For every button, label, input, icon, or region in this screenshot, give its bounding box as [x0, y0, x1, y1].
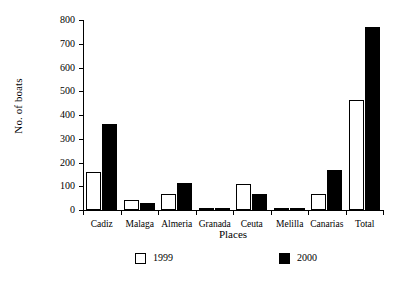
x-axis-tick — [308, 211, 309, 215]
bar-1999-almeria — [161, 194, 176, 210]
y-axis-tick: 700 — [79, 44, 84, 45]
legend-entry-1999: 1999 — [135, 252, 173, 264]
bar-group — [161, 20, 192, 210]
legend-label-2000: 2000 — [297, 252, 317, 264]
y-axis-tick: 400 — [79, 115, 84, 116]
y-axis-tick: 600 — [79, 68, 84, 69]
bar-group — [274, 20, 305, 210]
legend-swatch-1999 — [135, 253, 146, 264]
bar-2000-almeria — [177, 183, 192, 210]
bar-2000-melilla — [290, 208, 305, 210]
bar-1999-ceuta — [236, 184, 251, 210]
y-axis-title: No. of boats — [12, 61, 24, 151]
bar-group — [124, 20, 155, 210]
y-axis-tick-label: 700 — [60, 37, 75, 50]
y-axis-tick-label: 500 — [60, 84, 75, 97]
bar-1999-canarias — [311, 194, 326, 210]
y-axis-tick: 500 — [79, 91, 84, 92]
x-axis-tick — [346, 211, 347, 215]
y-axis-tick: 300 — [79, 139, 84, 140]
bar-chart-figure: No. of boats 0100200300400500600700800 C… — [0, 0, 407, 283]
bar-1999-granada — [199, 208, 214, 210]
x-axis-tick — [233, 211, 234, 215]
legend-label-1999: 1999 — [153, 252, 173, 264]
x-axis-tick — [271, 211, 272, 215]
bar-2000-total — [365, 27, 380, 210]
bar-group — [349, 20, 380, 210]
y-axis-tick-label: 400 — [60, 108, 75, 121]
bar-1999-cadiz — [86, 172, 101, 210]
y-axis-tick: 100 — [79, 186, 84, 187]
x-axis-tick — [383, 211, 384, 215]
x-axis-tick — [196, 211, 197, 215]
bar-2000-cadiz — [102, 124, 117, 210]
legend-swatch-2000 — [279, 253, 290, 264]
bar-1999-melilla — [274, 208, 289, 210]
bar-2000-malaga — [140, 203, 155, 210]
bar-1999-malaga — [124, 200, 139, 210]
bar-1999-total — [349, 100, 364, 210]
x-axis-tick — [83, 211, 84, 215]
bar-2000-ceuta — [252, 194, 267, 210]
y-axis-tick-label: 200 — [60, 156, 75, 169]
bar-group — [236, 20, 267, 210]
bar-2000-granada — [215, 208, 230, 210]
x-axis-title: Places — [83, 228, 383, 240]
bar-group — [199, 20, 230, 210]
y-axis-tick-label: 600 — [60, 61, 75, 74]
bar-group — [86, 20, 117, 210]
y-axis-tick: 200 — [79, 163, 84, 164]
y-axis-tick-label: 300 — [60, 132, 75, 145]
y-axis-tick-label: 800 — [60, 13, 75, 26]
chart-legend: 19992000 — [83, 252, 383, 268]
bar-2000-canarias — [327, 170, 342, 210]
x-axis-tick — [121, 211, 122, 215]
y-axis-tick-label: 100 — [60, 179, 75, 192]
bar-group — [311, 20, 342, 210]
y-axis-tick: 800 — [79, 20, 84, 21]
y-axis-tick-label: 0 — [70, 203, 75, 216]
legend-entry-2000: 2000 — [279, 252, 317, 264]
x-axis-tick — [158, 211, 159, 215]
plot-area: 0100200300400500600700800 CadizMalagaAlm… — [83, 20, 383, 210]
